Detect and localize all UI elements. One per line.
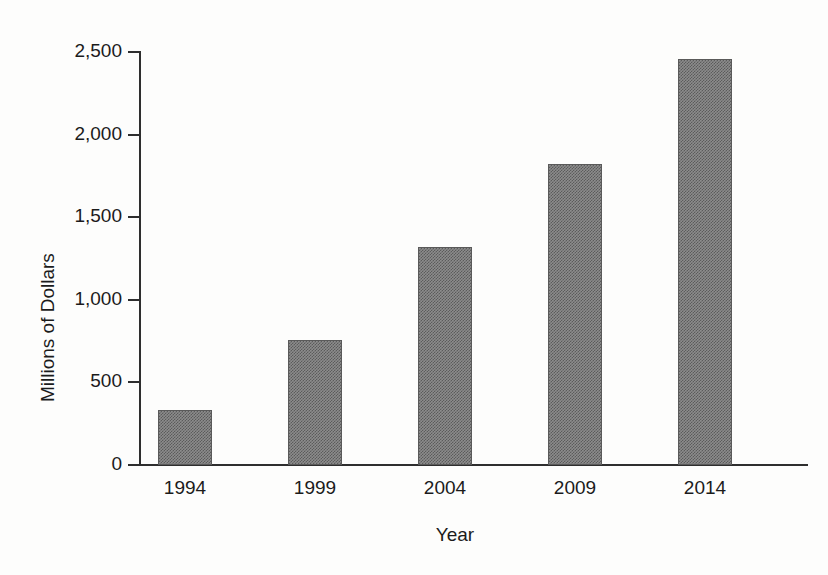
y-axis-tick [128, 134, 139, 136]
x-axis-tick-label: 2014 [645, 477, 765, 499]
x-axis-tick-label: 2004 [385, 477, 505, 499]
bar-1994 [158, 410, 212, 465]
y-axis-title-text: Millions of Dollars [37, 253, 59, 402]
x-axis-title-text: Year [436, 524, 474, 546]
y-axis-tick-label: 0 [28, 453, 122, 475]
plot-area [139, 52, 808, 465]
bar-chart-figure: 05001,0001,5002,0002,500 199419992004200… [0, 0, 828, 575]
y-axis-tick [128, 216, 139, 218]
y-axis-tick [128, 381, 139, 383]
y-axis-tick-label: 2,000 [28, 123, 122, 145]
y-axis-tick-label: 2,500 [28, 40, 122, 62]
bar-2004 [418, 247, 472, 465]
bar-2014 [678, 59, 732, 465]
x-axis-tick-label: 1999 [255, 477, 375, 499]
y-axis-title: Millions of Dollars [13, 150, 43, 410]
x-axis-tick-label: 1994 [125, 477, 245, 499]
y-axis-tick [128, 51, 139, 53]
bar-1999 [288, 340, 342, 465]
y-axis-tick [128, 299, 139, 301]
bar-2009 [548, 164, 602, 465]
x-axis-tick-label: 2009 [515, 477, 635, 499]
x-axis-title: Year [0, 524, 828, 546]
y-axis-tick [128, 464, 139, 466]
